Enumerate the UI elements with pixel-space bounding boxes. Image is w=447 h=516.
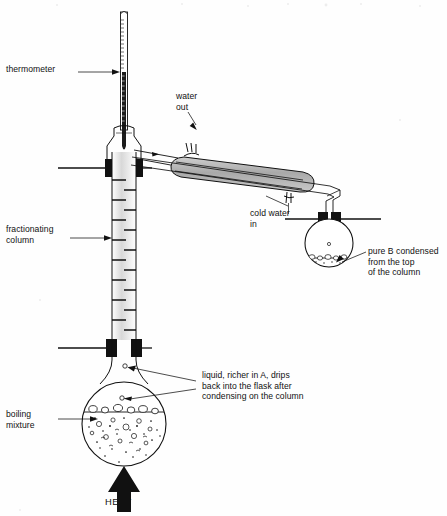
- label-reflux: liquid, richer in A, drips back into the…: [202, 370, 304, 402]
- fractionating-column: [112, 152, 136, 340]
- clamp-upper: [58, 159, 152, 177]
- leader-water-out: [188, 112, 197, 130]
- label-boiling-mixture: boiling mixture: [6, 409, 35, 430]
- leader-cold-water-in: [266, 196, 288, 206]
- label-heat: HEAT: [105, 497, 132, 508]
- leader-boiling-mixture: [58, 416, 98, 421]
- leader-column: [70, 235, 112, 240]
- label-water-out: water out: [176, 91, 197, 112]
- label-pure-b: pure B condensed from the top of the col…: [368, 246, 439, 278]
- label-cold-water-in: cold water in: [250, 208, 290, 229]
- thermometer: [121, 12, 128, 150]
- clamp-lower: [58, 339, 152, 357]
- figure-canvas: thermometer fractionating column boiling…: [0, 0, 447, 516]
- condenser-water-outlet: [184, 143, 199, 156]
- scan-speckle: [19, 3, 421, 511]
- liebig-condenser: [131, 143, 330, 214]
- receiver-adapter: [326, 186, 340, 216]
- boiling-flask: [82, 340, 166, 466]
- label-thermometer: thermometer: [6, 64, 55, 75]
- leader-thermometer: [78, 69, 120, 74]
- label-fractionating-column: fractionating column: [6, 224, 53, 245]
- receiving-flask: [305, 219, 353, 267]
